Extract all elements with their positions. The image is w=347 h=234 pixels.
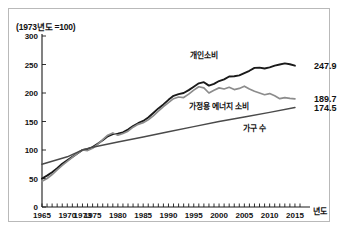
- x-tick-label: 1985: [134, 211, 152, 220]
- y-tick-label: 50: [29, 175, 38, 184]
- y-tick-label: 250: [25, 61, 39, 70]
- end-value-1: 247.9: [314, 61, 337, 71]
- y-axis-tick-labels: 050100150200250300: [25, 32, 39, 212]
- series-lines: [42, 63, 295, 181]
- series-annotation-2: 가정용 에너지 소비: [189, 101, 249, 111]
- y-tick-label: 150: [25, 118, 39, 127]
- x-tick-label: 1980: [109, 211, 127, 220]
- x-tick-label: 2000: [210, 211, 228, 220]
- x-tick-label: 1975: [84, 211, 102, 220]
- x-tick-label: 2010: [261, 211, 279, 220]
- x-tick-label: 1995: [185, 211, 203, 220]
- y-tick-label: 100: [25, 146, 39, 155]
- x-tick-label: 1965: [33, 211, 51, 220]
- x-tick-label: 2015: [286, 211, 304, 220]
- x-tick-label: 2005: [235, 211, 253, 220]
- chart-figure: (1973년도 =100) 050100150200250300 1965197…: [0, 0, 347, 234]
- series-annotation-1: 개인소비: [190, 50, 218, 60]
- end-value-3: 174.5: [314, 103, 337, 113]
- series-end-values: 247.9189.7174.5: [314, 61, 337, 113]
- y-tick-label: 300: [25, 32, 39, 41]
- x-axis-tick-labels: 1965197019731975198019851990199520002005…: [33, 211, 304, 220]
- series-annotation-3: 가구 수: [243, 123, 266, 133]
- axes: 050100150200250300 196519701973197519801…: [25, 32, 310, 220]
- series-line-1: [42, 63, 295, 178]
- x-tick-label: 1990: [160, 211, 178, 220]
- y-tick-label: 200: [25, 89, 39, 98]
- x-axis-unit-label: 년도: [313, 206, 328, 216]
- series-line-3: [42, 108, 295, 165]
- line-chart: 050100150200250300 196519701973197519801…: [0, 0, 347, 234]
